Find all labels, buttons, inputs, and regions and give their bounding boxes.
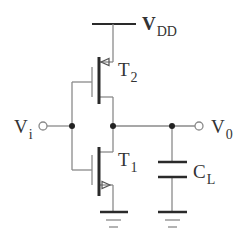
vo-label-main: V [211, 116, 225, 137]
ground-icon-t1 [100, 212, 128, 227]
cl-label-sub: L [207, 172, 216, 187]
cap-junction-dot [169, 123, 175, 129]
vdd-label-main: V [142, 13, 156, 34]
t1-label-sub: 1 [131, 160, 138, 175]
output-terminal-icon [195, 122, 203, 130]
vdd-label-sub: DD [157, 24, 177, 39]
input-terminal-icon [39, 122, 47, 130]
vo-label: V0 [211, 117, 233, 136]
t2-label-main: T [118, 59, 130, 80]
output-junction-dot [110, 123, 116, 129]
t1-label-main: T [118, 149, 130, 170]
t2-label: T2 [118, 60, 138, 79]
t1-label: T1 [118, 150, 138, 169]
vdd-label: VDD [142, 14, 177, 33]
vi-label-sub: i [29, 127, 33, 142]
input-junction-dot [69, 123, 75, 129]
t2-label-sub: 2 [131, 70, 138, 85]
ground-icon-cap [158, 212, 187, 227]
cmos-inverter-schematic [0, 0, 246, 243]
vi-label: Vi [14, 117, 33, 136]
vo-label-sub: 0 [226, 127, 233, 142]
cl-label-main: C [193, 161, 206, 182]
cl-label: CL [193, 162, 215, 181]
vi-label-main: V [14, 116, 28, 137]
